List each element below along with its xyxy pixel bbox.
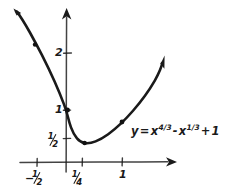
- graph-canvas: [0, 0, 228, 191]
- equation-operator-1: -: [173, 124, 178, 138]
- x-axis-group: [20, 157, 177, 166]
- x-tick-label-neg-half: −12: [25, 170, 40, 186]
- y-axis-line: [66, 17, 67, 172]
- exponent-numerator: 4: [158, 123, 163, 132]
- x-tick-label-quarter: 14: [74, 170, 80, 186]
- fraction-one-half: 12: [34, 170, 40, 186]
- curve-point-at-one: [120, 120, 125, 125]
- x-axis-line: [20, 162, 168, 163]
- equation-exponent-2: 1/3: [186, 123, 199, 132]
- y-tick-label-two: 2: [55, 47, 63, 58]
- exponent-numerator: 1: [186, 123, 191, 132]
- equation-constant: 1: [212, 124, 220, 138]
- curve-point-left-branch: [33, 42, 37, 46]
- curve-point-minimum: [82, 141, 87, 146]
- equation-operator-2: +: [201, 124, 211, 138]
- fraction-denominator: 4: [76, 178, 82, 186]
- exponent-denominator: 3: [166, 123, 171, 132]
- equation-annotation: y=x4/3-x1/3+1: [131, 124, 220, 137]
- y-axis-group: [62, 8, 72, 172]
- equation-equals: =: [140, 124, 150, 138]
- x-tick-label-one: 1: [119, 169, 127, 180]
- fraction-denominator: 2: [36, 178, 42, 186]
- hand-drawn-graph-figure: −12 14 1 2 1 12 y=x4/3-x1/3+1: [0, 0, 228, 191]
- y-tick-label-one: 1: [55, 104, 63, 115]
- fraction-one-half: 12: [50, 132, 56, 148]
- equation-lhs: y: [131, 124, 139, 138]
- curve-point-y-intercept: [65, 108, 70, 113]
- fraction-denominator: 2: [52, 140, 58, 148]
- exponent-denominator: 3: [194, 123, 199, 132]
- equation-exponent-1: 4/3: [158, 123, 171, 132]
- fraction-one-quarter: 14: [74, 170, 80, 186]
- y-tick-label-half: 12: [50, 132, 56, 148]
